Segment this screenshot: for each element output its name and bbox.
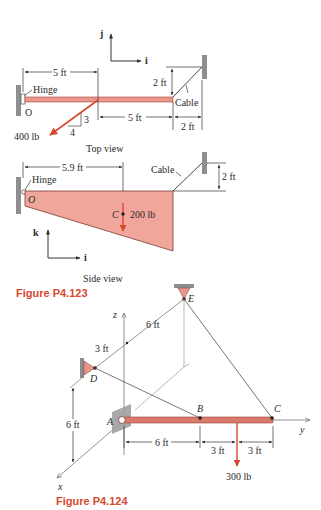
slope-run: 4 xyxy=(70,127,75,138)
diagram-canvas: j i Hinge O 5 ft 400 lb 3 4 5 ft Cable xyxy=(0,0,321,510)
left-wall xyxy=(16,85,21,116)
dim-d-to-z: 3 ft xyxy=(95,343,109,354)
top-view: j i Hinge O 5 ft 400 lb 3 4 5 ft Cable xyxy=(14,28,207,154)
figure-p4-124-caption: Figure P4.124 xyxy=(56,495,128,507)
cable-ce xyxy=(184,299,272,418)
origin-label: O xyxy=(25,107,32,118)
figure-p4-123-caption: Figure P4.123 xyxy=(16,287,88,299)
dim-center-x: 5.9 ft xyxy=(62,162,83,173)
dim-left-span: 5 ft xyxy=(53,67,67,78)
slope-rise: 3 xyxy=(84,114,89,125)
point-c-label: C xyxy=(274,403,281,414)
weight-200-label: 200 lb xyxy=(130,209,155,220)
j-unit-label: j xyxy=(99,28,103,39)
side-right-wall xyxy=(202,152,207,174)
cable-label: Cable xyxy=(175,97,199,108)
load-300-label: 300 lb xyxy=(226,471,251,482)
point-b-label: B xyxy=(197,403,203,414)
y-axis-label: y xyxy=(299,424,305,435)
d-support-plate xyxy=(80,358,84,378)
dim-cable-y: 2 ft xyxy=(153,77,167,88)
point-e-label: E xyxy=(187,293,194,304)
dim-side-cable-height: 2 ft xyxy=(222,171,236,182)
dim-b-to-load: 3 ft xyxy=(211,445,225,456)
side-origin-label: O xyxy=(28,194,35,205)
right-wall xyxy=(202,55,207,79)
i-unit-label: i xyxy=(145,55,148,66)
plate-member xyxy=(25,191,173,251)
figure-p4-124: E z y x 3 ft 6 ft D 6 ft xyxy=(57,284,310,492)
dim-a-to-b: 6 ft xyxy=(155,437,169,448)
dim-cable-x: 2 ft xyxy=(181,121,195,132)
bar-member xyxy=(25,97,173,102)
force-400-label: 400 lb xyxy=(14,131,39,142)
hinge-label: Hinge xyxy=(33,84,58,95)
point-d-label: D xyxy=(89,373,98,384)
side-cable-label: Cable xyxy=(151,164,175,175)
e-support-plate xyxy=(174,284,194,288)
dim-load-to-c: 3 ft xyxy=(248,445,262,456)
cable-bd xyxy=(95,368,200,418)
a-ball-joint-icon xyxy=(119,417,126,424)
top-view-unit-axes: j i xyxy=(99,28,148,66)
de-line xyxy=(95,299,184,368)
dim-height: 6 ft xyxy=(66,419,80,430)
top-view-title: Top view xyxy=(86,143,124,154)
center-label: C xyxy=(112,209,119,220)
side-hinge-label: Hinge xyxy=(32,174,57,185)
side-view: Hinge O C 200 lb 5.9 ft Cable 2 ft k i S… xyxy=(16,152,236,284)
z-axis-label: z xyxy=(112,309,117,320)
dim-right-span: 5 ft xyxy=(128,112,142,123)
dim-z-to-e: 6 ft xyxy=(146,319,160,330)
x-axis-label: x xyxy=(57,481,63,492)
point-a-label: A xyxy=(106,416,114,427)
side-i-unit-label: i xyxy=(84,252,87,263)
k-unit-label: k xyxy=(33,227,39,238)
side-cable-line xyxy=(173,163,202,191)
side-view-title: Side view xyxy=(83,273,123,284)
side-left-wall xyxy=(16,177,21,214)
